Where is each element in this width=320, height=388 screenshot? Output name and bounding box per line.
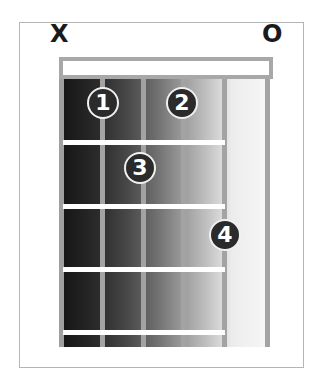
open-string-marker: O (262, 22, 282, 46)
finger-dot-1: 1 (87, 87, 119, 119)
string-6 (59, 79, 64, 347)
fretboard-gradient (63, 79, 269, 347)
fret-4 (63, 330, 225, 335)
fret-2 (63, 204, 225, 209)
fret-1 (63, 140, 225, 145)
string-5 (100, 79, 105, 347)
muted-string-marker: X (50, 22, 69, 46)
string-4 (141, 79, 146, 347)
string-1 (265, 79, 270, 347)
finger-dot-4: 4 (209, 219, 241, 251)
finger-dot-2: 2 (166, 87, 198, 119)
string-2 (222, 79, 227, 347)
nut (59, 57, 273, 79)
string-3 (181, 79, 186, 347)
fret-3 (63, 267, 225, 272)
finger-dot-3: 3 (124, 152, 156, 184)
fretboard: 1 2 3 4 (59, 57, 273, 347)
